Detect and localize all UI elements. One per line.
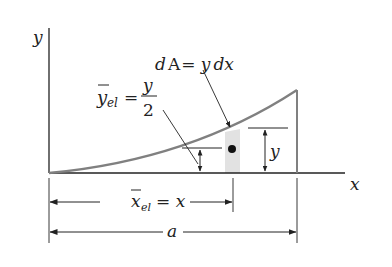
svg-text:el: el (141, 201, 152, 214)
x-axis-label: x (350, 174, 360, 194)
svg-text:2: 2 (143, 100, 154, 120)
curve (49, 90, 297, 173)
element-centroid-dot (228, 145, 236, 153)
y-el-formula: y el = y 2 (96, 75, 157, 120)
area-leader-line (203, 70, 230, 127)
svg-text:x: x (131, 191, 141, 211)
svg-text:= x: = x (156, 191, 186, 211)
svg-text:=: = (124, 87, 138, 107)
height-label: y (269, 141, 280, 161)
centroid-height-leader (163, 110, 198, 164)
svg-text:el: el (107, 96, 118, 110)
svg-text:y: y (142, 75, 153, 95)
y-axis-label: y (32, 27, 43, 47)
x-el-formula: x el = x (131, 190, 186, 214)
area-label: dA= ydx (155, 54, 234, 74)
centroid-diagram: y x dA= ydx y y el = y 2 x el = x (0, 0, 392, 267)
width-label: a (167, 221, 177, 241)
